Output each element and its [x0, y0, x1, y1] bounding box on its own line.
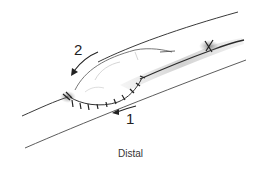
vessel-illustration	[0, 0, 257, 171]
figure-caption: Distal	[118, 148, 143, 159]
step-2-label: 2	[74, 41, 82, 58]
vessel-lower-wall	[25, 60, 246, 148]
heel-knot	[60, 91, 76, 103]
graft-top-right	[160, 51, 175, 52]
step-1-label: 1	[126, 110, 134, 127]
vessel-upper-wall	[22, 12, 238, 116]
anastomosis-diagram: 2 1 Distal	[0, 0, 257, 171]
